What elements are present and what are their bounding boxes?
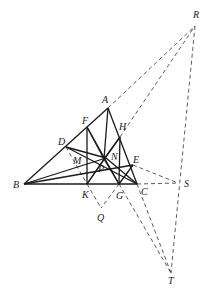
- segment-RT: [171, 26, 195, 273]
- point-label-E: E: [132, 154, 139, 165]
- segment-CT: [137, 184, 171, 273]
- point-label-F: F: [81, 115, 89, 126]
- segment-ES: [133, 165, 178, 183]
- segment-HR: [120, 26, 195, 137]
- point-label-N: N: [110, 151, 119, 162]
- point-label-T: T: [168, 275, 175, 286]
- segment-HG: [119, 137, 120, 184]
- point-label-B: B: [13, 179, 19, 190]
- point-label-H: H: [118, 121, 127, 132]
- point-label-P: P: [97, 163, 104, 174]
- point-label-M: M: [72, 155, 82, 166]
- segment-CS: [137, 183, 178, 184]
- segment-AP: [104, 108, 108, 159]
- segment-AR: [108, 26, 195, 108]
- segment-GT: [119, 184, 171, 273]
- point-label-A: A: [101, 94, 109, 105]
- point-label-G: G: [116, 190, 123, 201]
- point-labels: ABCDEFGHKMNPQRST: [13, 9, 199, 286]
- point-label-R: R: [192, 9, 199, 20]
- geometry-diagram: ABCDEFGHKMNPQRST: [0, 0, 209, 307]
- segment-KQ: [87, 184, 101, 208]
- dashed-construction-lines: [66, 26, 195, 273]
- point-label-D: D: [57, 136, 66, 147]
- point-label-C: C: [141, 186, 148, 197]
- point-label-S: S: [184, 178, 189, 189]
- point-label-Q: Q: [97, 212, 105, 223]
- point-label-K: K: [81, 189, 90, 200]
